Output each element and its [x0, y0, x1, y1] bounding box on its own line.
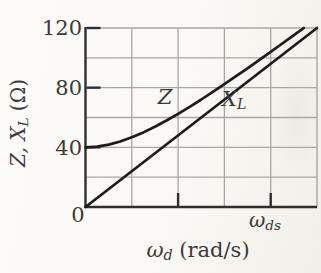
x-axis-title-subscript: d [164, 247, 173, 263]
x-axis-title: ωd (rad/s) [118, 239, 278, 266]
y-tick-label-40: 40 [38, 138, 82, 158]
y-axis-title-subscript: L [15, 118, 31, 127]
x-axis-title-symbol: ω [146, 238, 163, 262]
x-tick-label-omega-ds: ωds [239, 210, 291, 235]
omega-ds-subscript: ds [265, 217, 281, 233]
y-axis-title: Z, XL (Ω) [7, 73, 29, 173]
curve-label-xl-main: X [222, 87, 237, 111]
omega-ds-symbol: ω [249, 208, 265, 232]
x-axis-title-units: (rad/s) [173, 238, 250, 262]
curve-label-xl-subscript: L [237, 96, 246, 112]
y-tick-label-120: 120 [38, 18, 82, 38]
y-tick-label-80: 80 [38, 78, 82, 98]
curve-label-xl: XL [222, 89, 256, 114]
curve-label-z: Z [152, 87, 178, 107]
y-axis-title-symbols: Z, X [6, 127, 30, 168]
origin-label: 0 [66, 205, 90, 225]
y-axis-title-units: (Ω) [6, 79, 30, 118]
figure-impedance-vs-frequency: Z, XL (Ω) 120 80 40 0 ωds ωd (rad/s) Z X… [0, 0, 321, 273]
